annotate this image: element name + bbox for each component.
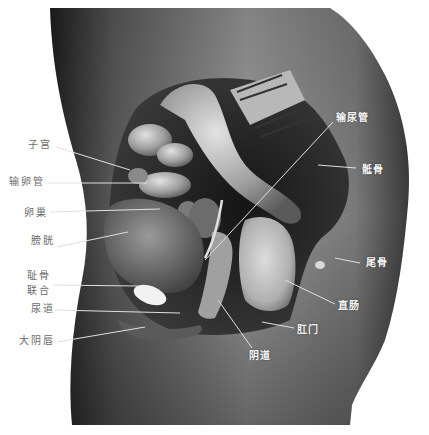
label-fallopian-tube: 输卵管 — [9, 176, 45, 188]
label-pubic-line1: 耻骨 — [27, 270, 51, 282]
label-bladder: 膀胱 — [31, 235, 55, 247]
coccyx — [315, 261, 325, 269]
label-labia-majora: 大阴唇 — [19, 335, 55, 347]
anatomy-figure — [0, 0, 429, 435]
label-ovary: 卵巢 — [24, 207, 48, 219]
label-uterus: 子宫 — [28, 139, 52, 151]
rectum — [239, 217, 296, 311]
label-sacrum: 骶骨 — [362, 164, 384, 176]
label-vagina: 阴道 — [249, 350, 271, 362]
label-rectum: 直肠 — [338, 300, 360, 312]
label-anus: 肛门 — [297, 324, 319, 336]
label-ureter: 输尿管 — [336, 112, 369, 124]
label-pubic-line2: 联合 — [27, 285, 51, 297]
label-urethra: 尿道 — [31, 303, 55, 315]
label-coccyx: 尾骨 — [366, 257, 388, 269]
